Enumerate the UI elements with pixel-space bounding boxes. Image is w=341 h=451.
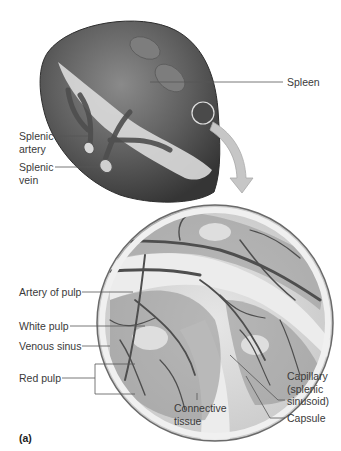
label-splenic-vein: Splenic vein [19,161,53,186]
label-artery-of-pulp: Artery of pulp [19,286,81,299]
label-capillary: Capillary (splenic sinusoid) [287,370,329,408]
label-spleen: Spleen [287,76,320,89]
spleen-organ [40,21,220,202]
label-red-pulp: Red pulp [19,372,61,385]
label-white-pulp: White pulp [19,320,69,333]
label-connective-tissue: Connective tissue [174,402,227,427]
label-venous-sinus: Venous sinus [19,340,81,353]
label-capsule: Capsule [287,412,326,425]
label-splenic-artery: Splenic artery [19,130,53,155]
panel-label: (a) [19,432,32,444]
